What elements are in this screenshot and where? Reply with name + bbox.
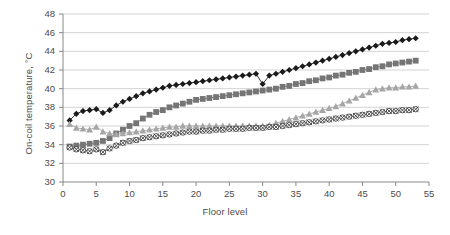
chart-container: On-coil temperature, °C Floor level 3032… [0,0,450,235]
series-4 [67,107,418,155]
gridlines [63,14,429,163]
plot-area [0,0,450,235]
series-1 [67,35,419,123]
axes [59,14,429,186]
